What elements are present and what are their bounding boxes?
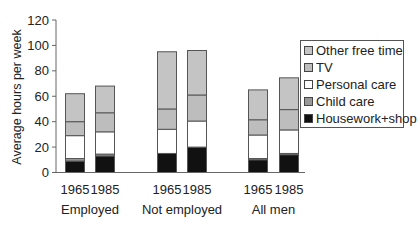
x-axis: 196519851965198519651985EmployedNot empl… xyxy=(56,173,305,218)
bar-segment-tv xyxy=(188,95,207,121)
bar-segment-housework-shop xyxy=(158,153,177,172)
bar-segment-personal-care xyxy=(188,121,207,147)
legend-item-housework-shop: Housework+shop xyxy=(304,110,403,127)
bar-segment-personal-care xyxy=(158,129,177,153)
bar-segment-tv xyxy=(158,109,177,129)
legend-item-personal-care: Personal care xyxy=(304,76,403,93)
bar-employed-1985 xyxy=(96,86,115,172)
y-axis-label: Average hours per week xyxy=(10,29,24,165)
legend-item-other-free-time: Other free time xyxy=(304,42,403,59)
legend-swatch xyxy=(304,46,313,55)
legend-swatch xyxy=(304,80,313,89)
x-group-label: All men xyxy=(252,202,295,217)
legend-label: TV xyxy=(316,60,333,75)
bar-all-men-1985 xyxy=(280,78,299,173)
legend-label: Child care xyxy=(316,94,375,109)
bar-segment-other-free-time xyxy=(96,86,115,113)
bar-not-employed-1965 xyxy=(158,52,177,173)
y-tick-label: 40 xyxy=(35,114,49,129)
legend-label: Personal care xyxy=(316,77,396,92)
x-tick-label: 1965 xyxy=(61,182,90,197)
x-tick-label: 1985 xyxy=(183,182,212,197)
bar-segment-tv xyxy=(280,110,299,130)
legend-label: Housework+shop xyxy=(316,111,417,126)
bar-segment-tv xyxy=(249,120,268,135)
bar-employed-1965 xyxy=(66,94,85,173)
bars xyxy=(66,51,299,173)
bar-segment-other-free-time xyxy=(66,94,85,122)
bar-segment-other-free-time xyxy=(249,90,268,120)
y-tick-label: 120 xyxy=(27,13,49,28)
bar-segment-tv xyxy=(66,122,85,136)
y-tick-label: 100 xyxy=(27,38,49,53)
bar-segment-personal-care xyxy=(249,135,268,159)
bar-segment-housework-shop xyxy=(66,161,85,172)
x-group-label: Employed xyxy=(61,202,119,217)
x-tick-label: 1965 xyxy=(153,182,182,197)
bar-segment-tv xyxy=(96,113,115,132)
y-tick-label: 80 xyxy=(35,63,49,78)
legend-swatch xyxy=(304,97,313,106)
x-tick-label: 1985 xyxy=(275,182,304,197)
y-axis: 020406080100120 xyxy=(27,13,56,181)
bar-all-men-1965 xyxy=(249,90,268,173)
bar-segment-other-free-time xyxy=(158,52,177,109)
y-tick-label: 0 xyxy=(42,165,49,180)
bar-segment-housework-shop xyxy=(249,160,268,173)
y-tick-label: 60 xyxy=(35,89,49,104)
legend-item-tv: TV xyxy=(304,59,403,76)
bar-segment-housework-shop xyxy=(188,147,207,172)
x-tick-label: 1985 xyxy=(91,182,120,197)
bar-segment-personal-care xyxy=(96,132,115,154)
bar-segment-other-free-time xyxy=(280,78,299,110)
bar-segment-personal-care xyxy=(280,130,299,154)
x-group-label: Not employed xyxy=(142,202,222,217)
legend-swatch xyxy=(304,114,313,123)
bar-not-employed-1985 xyxy=(188,51,207,173)
bar-segment-other-free-time xyxy=(188,51,207,95)
bar-segment-housework-shop xyxy=(280,155,299,173)
x-tick-label: 1965 xyxy=(244,182,273,197)
legend-item-child-care: Child care xyxy=(304,93,403,110)
y-tick-label: 20 xyxy=(35,140,49,155)
legend-label: Other free time xyxy=(316,43,403,58)
bar-segment-housework-shop xyxy=(96,156,115,173)
legend: Other free time TV Personal care Child c… xyxy=(300,40,404,128)
bar-segment-personal-care xyxy=(66,136,85,159)
legend-swatch xyxy=(304,63,313,72)
